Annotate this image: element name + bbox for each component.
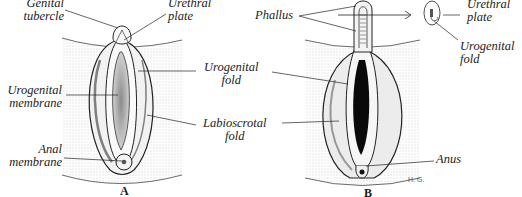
label-urethral-plate-b: Urethral plate — [467, 0, 510, 24]
label-anal-membrane: Anal membrane — [0, 143, 62, 169]
label-genital-tubercle: Genital tubercle — [14, 0, 64, 23]
label-labioscrotal-fold: Labioscrotal fold — [203, 117, 266, 143]
label-line: plate — [168, 10, 211, 23]
label-urogenital-fold-b: Urogenital fold — [460, 40, 514, 66]
panel-label-a: A — [120, 184, 129, 197]
label-line: fold — [204, 74, 258, 87]
label-line: membrane — [0, 97, 62, 110]
label-line: fold — [203, 130, 266, 143]
label-line: fold — [460, 53, 514, 66]
diagram-illustration — [0, 0, 522, 197]
label-line: plate — [467, 11, 510, 24]
figure-a-drawing — [62, 10, 196, 184]
label-line: tubercle — [14, 10, 64, 23]
label-urogenital-fold: Urogenital fold — [204, 61, 258, 87]
label-line: membrane — [0, 156, 62, 169]
artist-signature: H. G. — [408, 176, 424, 183]
figure-b-drawing — [272, 1, 460, 186]
embryology-diagram: Genital tubercle Urethral plate Urogenit… — [0, 0, 522, 197]
label-anus: Anus — [436, 153, 461, 166]
label-urogenital-membrane: Urogenital membrane — [0, 84, 62, 110]
label-urethral-plate-a: Urethral plate — [168, 0, 211, 23]
label-phallus: Phallus — [255, 9, 293, 22]
panel-label-b: B — [364, 186, 372, 197]
